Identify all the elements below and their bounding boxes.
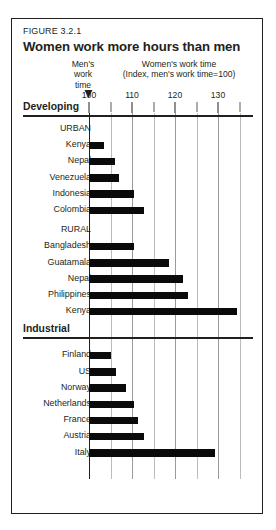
mens-work-time-caption: Men's work time <box>55 59 111 90</box>
bar-row-label: Philippines <box>12 289 91 299</box>
bar-row-label: Nepal <box>12 155 91 165</box>
bar <box>89 292 188 300</box>
bar-row: Kenya <box>12 137 262 153</box>
x-tick-label-130: 130 <box>211 90 225 100</box>
bar-row-label: Kenya <box>12 305 91 315</box>
bar-row: Nepal <box>12 153 262 169</box>
womens-caption-line2: (Index, men's work time=100) <box>104 69 254 79</box>
x-axis-tick-labels: 100110120130 <box>12 90 262 101</box>
chart-plot-area: DevelopingURBANKenyaNepalVenezuelaIndone… <box>12 101 262 513</box>
figure-title: Women work more hours than men <box>23 39 240 54</box>
bar <box>89 207 144 215</box>
bar-row-label: Netherlands <box>12 398 91 408</box>
bar-row-label: Indonesia <box>12 188 91 198</box>
bar-row: Finland <box>12 347 262 363</box>
bar-row: US <box>12 364 262 380</box>
bar <box>89 174 119 182</box>
bar <box>89 158 115 166</box>
bar <box>89 417 138 425</box>
bar <box>89 259 169 267</box>
womens-work-time-caption: Women's work time (Index, men's work tim… <box>104 59 254 80</box>
bar-row: Kenya <box>12 303 262 319</box>
bar-row: Venezuela <box>12 170 262 186</box>
bar <box>89 142 104 150</box>
section-rule <box>23 115 253 117</box>
bar-row: Nepal <box>12 271 262 287</box>
womens-caption-line1: Women's work time <box>104 59 254 69</box>
bar-row-label: France <box>12 414 91 424</box>
bar-row: Philippines <box>12 287 262 303</box>
bar <box>89 384 126 392</box>
x-tick-label-110: 110 <box>125 90 139 100</box>
bar-row-label: Finland <box>12 349 91 359</box>
group-header-rural: RURAL <box>12 222 262 238</box>
bar-row-label: US <box>12 366 91 376</box>
group-header-urban: URBAN <box>12 121 262 137</box>
bar-row-label: Nepal <box>12 273 91 283</box>
bar-row-label: Italy <box>12 447 91 457</box>
bar <box>89 401 134 409</box>
bar <box>89 368 116 376</box>
bar-row-label: Bangladesh <box>12 240 91 250</box>
bar-row-label: Venezuela <box>12 172 91 182</box>
bar <box>89 275 183 283</box>
bar-row: Indonesia <box>12 186 262 202</box>
bar <box>89 352 111 360</box>
section-rule <box>23 337 253 339</box>
bar-row: Norway <box>12 380 262 396</box>
section-label: Industrial <box>23 323 70 334</box>
bar <box>89 190 134 198</box>
group-label: RURAL <box>12 224 91 234</box>
figure-frame: FIGURE 3.2.1 Women work more hours than … <box>11 18 263 514</box>
figure-number: FIGURE 3.2.1 <box>23 26 81 36</box>
bar-row-label: Kenya <box>12 139 91 149</box>
bar <box>89 243 134 251</box>
bar-row-label: Guatamala <box>12 257 91 267</box>
bar <box>89 433 144 441</box>
bar <box>89 308 237 316</box>
mens-work-time-arrow-icon <box>85 90 93 98</box>
bar-row: Bangladesh <box>12 238 262 254</box>
bar-row: Guatamala <box>12 255 262 271</box>
section-label: Developing <box>23 101 79 112</box>
group-label: URBAN <box>12 123 91 133</box>
bar-row-label: Norway <box>12 382 91 392</box>
bar <box>89 449 215 457</box>
bar-row: Italy <box>12 445 262 461</box>
bar-row: France <box>12 412 262 428</box>
bar-row: Austria <box>12 428 262 444</box>
bar-row-label: Colombia <box>12 204 91 214</box>
bar-row: Colombia <box>12 202 262 218</box>
bar-row-label: Austria <box>12 430 91 440</box>
mens-caption-line3: time <box>55 80 111 90</box>
bar-row: Netherlands <box>12 396 262 412</box>
mens-caption-line2: work <box>55 69 111 79</box>
mens-caption-line1: Men's <box>55 59 111 69</box>
x-tick-label-120: 120 <box>168 90 182 100</box>
